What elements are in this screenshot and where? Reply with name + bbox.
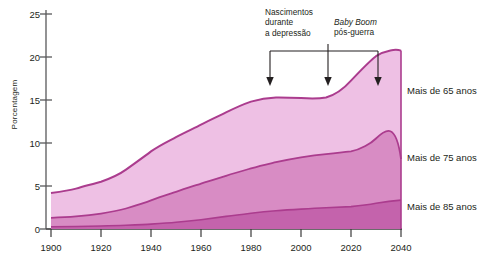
annotation-babyboom-line1: Baby Boom [334, 17, 377, 27]
chart-canvas [0, 0, 482, 266]
annotation-babyboom: Baby Boom pós-guerra [334, 17, 377, 38]
annotation-depression-line1: Nascimentos [265, 7, 313, 17]
annotation-babyboom-line2: pós-guerra [334, 27, 377, 37]
annotation-depression-line3: a depressão [265, 28, 313, 38]
series-label-85: Mais de 85 anos [407, 201, 477, 212]
series-label-65: Mais de 65 anos [407, 85, 477, 96]
chart-figure: Porcentagem 0 5 10 15 20 25 1900 1920 19… [0, 0, 482, 266]
series-label-75: Mais de 75 anos [407, 152, 477, 163]
annotation-depression-line2: durante [265, 17, 313, 27]
annotation-depression: Nascimentos durante a depressão [265, 7, 313, 38]
